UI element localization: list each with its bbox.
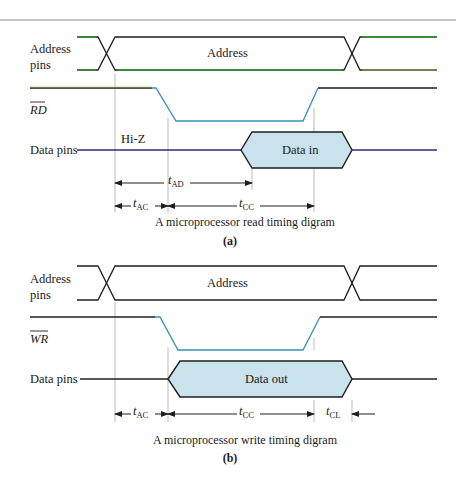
- rd-waveform: [30, 87, 437, 121]
- address-pins-label: Address: [30, 42, 71, 56]
- caption-a: A microprocessor read timing digram: [155, 215, 336, 229]
- address-pins-label-2: pins: [30, 288, 51, 302]
- t-cc-label: tCC: [239, 404, 254, 420]
- caption-b: A microprocessor write timing digram: [153, 433, 338, 447]
- timing-diagrams: Address pins Address RD Data in Data pin…: [0, 0, 463, 478]
- address-pins-label: Address: [30, 272, 71, 286]
- data-in-text: Data in: [282, 143, 319, 157]
- address-waveform: [77, 37, 437, 70]
- address-waveform: [77, 266, 437, 300]
- figure-b-write-timing: Address pins Address WR Data out Data pi…: [30, 266, 437, 465]
- t-cl-label: tCL: [326, 404, 340, 420]
- panel-label-b: (b): [223, 451, 238, 465]
- panel-label-a: (a): [223, 234, 237, 248]
- address-bus-text: Address: [207, 46, 248, 60]
- t-ac-label: tAC: [133, 404, 149, 420]
- wr-label: WR: [30, 332, 48, 346]
- data-pins-label: Data pins: [30, 372, 78, 386]
- wr-waveform: [30, 317, 437, 350]
- t-cc-label: tCC: [239, 196, 254, 212]
- hi-z-label: Hi-Z: [121, 132, 145, 146]
- data-pins-label: Data pins: [30, 143, 78, 157]
- data-out-text: Data out: [245, 372, 288, 386]
- t-ad-label: tAD: [168, 173, 184, 189]
- t-ac-label: tAC: [133, 196, 149, 212]
- address-pins-label-2: pins: [30, 58, 51, 72]
- figure-a-read-timing: Address pins Address RD Data in Data pin…: [29, 37, 437, 248]
- address-bus-text: Address: [207, 276, 248, 290]
- rd-label: RD: [29, 103, 47, 117]
